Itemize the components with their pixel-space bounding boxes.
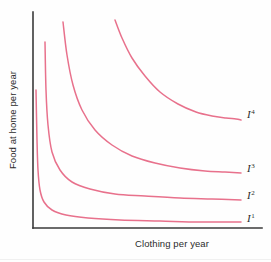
curve-i3 [63,22,241,173]
curve-i2 [45,42,241,200]
y-axis-label: Food at home per year [7,71,18,169]
bottom-rule [0,259,271,260]
curve-label-i2: I2 [246,189,255,201]
figure-container: I1 I2 I3 I4 Clothing per year Food at ho… [0,0,271,262]
curve-i1 [36,90,241,222]
curve-label-i4: I4 [246,108,255,120]
curve-i4 [115,20,241,120]
x-axis-label: Clothing per year [135,238,209,249]
curve-label-i3: I3 [246,162,255,174]
curve-label-i1: I1 [246,212,255,224]
indifference-curve-chart: I1 I2 I3 I4 Clothing per year Food at ho… [0,0,271,262]
